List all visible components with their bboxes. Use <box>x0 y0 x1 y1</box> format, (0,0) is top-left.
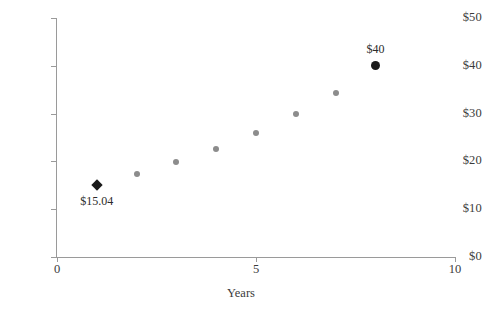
data-point <box>253 130 259 136</box>
data-point-label: $15.04 <box>80 194 113 209</box>
data-point <box>333 90 339 96</box>
data-point <box>293 111 299 117</box>
scatter-chart: $0$10$20$30$40$50 0510 Years $15.04$40 <box>0 0 482 310</box>
data-point-label: $40 <box>366 42 384 57</box>
plot-area <box>57 18 455 257</box>
x-axis-tick-label: 10 <box>435 262 475 277</box>
x-axis-title: Years <box>0 286 482 301</box>
x-axis-tick-label: 0 <box>37 262 77 277</box>
data-point <box>134 171 140 177</box>
x-axis-tick-label: 5 <box>236 262 276 277</box>
